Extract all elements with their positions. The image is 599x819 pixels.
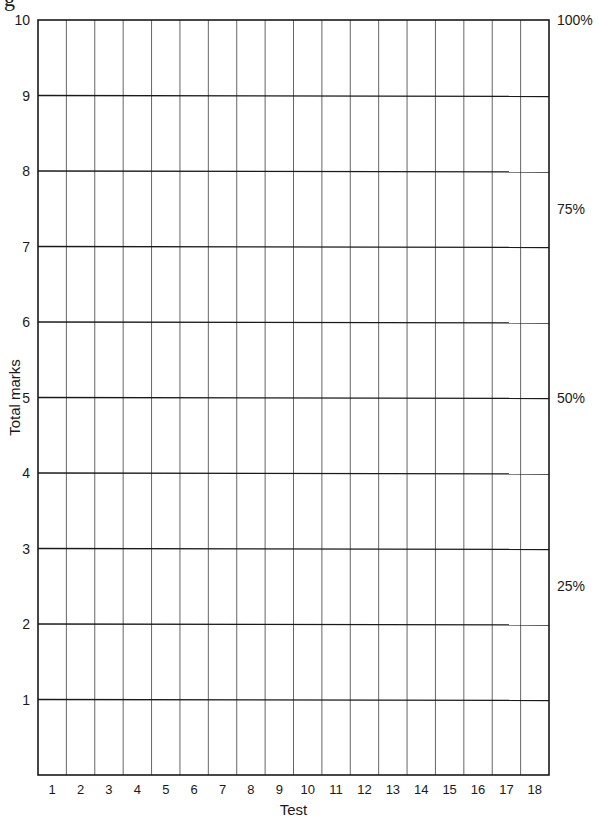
grid-row-line [38,473,549,474]
x-tick-label: 6 [191,782,198,797]
grid-row-line [38,398,549,399]
y-tick-label: 3 [22,541,30,557]
x-tick-label: 16 [471,782,485,797]
percent-tick-label: 50% [557,390,585,406]
percent-tick-label: 75% [557,201,585,217]
x-tick-label: 5 [162,782,169,797]
y-tick-label: 6 [22,314,30,330]
x-tick-label: 18 [528,782,542,797]
grid-row-line [38,96,549,97]
x-tick-label: 14 [414,782,428,797]
grid-row-line [38,549,549,550]
x-tick-label: 9 [276,782,283,797]
percent-tick-label: 100% [557,12,593,28]
x-tick-label: 2 [77,782,84,797]
percent-tick-label: 25% [557,578,585,594]
grid-row-line [38,700,549,701]
y-tick-label: 2 [22,616,30,632]
x-tick-label: 15 [442,782,456,797]
x-tick-label: 13 [386,782,400,797]
y-tick-label: 4 [22,465,30,481]
x-tick-label: 1 [49,782,56,797]
grid-row-line [38,171,549,172]
grid-row-line [38,624,549,625]
y-axis-title: Total marks [6,359,23,436]
x-tick-label: 17 [499,782,513,797]
x-tick-label: 10 [300,782,314,797]
grid-row-line [38,247,549,248]
x-tick-label: 11 [329,782,343,797]
x-tick-label: 4 [134,782,141,797]
y-tick-label: 5 [22,390,30,406]
x-axis-title: Test [280,801,308,818]
y-tick-label: 7 [22,239,30,255]
x-tick-label: 8 [247,782,254,797]
y-tick-label: 1 [22,692,30,708]
x-tick-label: 3 [105,782,112,797]
y-tick-label: 10 [14,12,30,28]
y-tick-label: 9 [22,88,30,104]
marks-chart: 12345678910100%75%50%25%1234567891011121… [0,0,599,819]
x-tick-label: 12 [357,782,371,797]
grid-row-line [38,322,549,323]
x-tick-label: 7 [219,782,226,797]
y-tick-label: 8 [22,163,30,179]
